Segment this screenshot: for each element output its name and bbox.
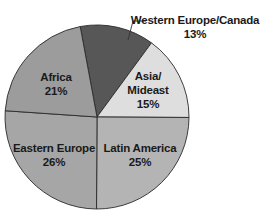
- pie-chart: Western Europe/Canada13%Asia/Mideast15%L…: [0, 0, 274, 218]
- slice-label: Western Europe/Canada13%: [131, 14, 260, 40]
- pie-slices: [5, 25, 189, 209]
